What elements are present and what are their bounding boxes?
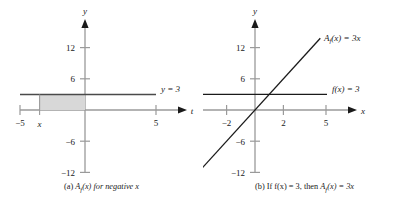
- x-axis-name-x: x: [360, 106, 365, 116]
- y-axis-arrow: [251, 19, 258, 28]
- y-axis-name-y: y: [82, 6, 87, 16]
- y-tick-label-minus12: −12: [61, 168, 75, 178]
- y-tick-label-minus12: −12: [231, 168, 245, 178]
- curve-label-af-rest: (x) = 3x: [331, 33, 360, 43]
- figure-container: −5 x 5 12 6 −6 −12 t y y = 3 (a) Af(x) f…: [0, 0, 406, 206]
- caption-a-prefix: (a): [64, 182, 73, 191]
- x-tick-label-2: 2: [281, 118, 286, 128]
- curve-label-af-equals-3x: Af(x) = 3x: [323, 33, 360, 44]
- curve-label-f-equals-3: f(x) = 3: [332, 84, 360, 94]
- plot-b: −5 −2 2 5 12 6 −6 −12 x y f(x) = 3 Af(x)…: [203, 0, 406, 181]
- caption-b-prefix: (b) If f(x) = 3, then: [255, 182, 318, 191]
- x-axis-name-t: t: [191, 106, 194, 116]
- caption-a: (a) Af(x) for negative x: [0, 181, 203, 195]
- y-tick-label-minus6: −6: [65, 137, 75, 147]
- y-axis-name-y: y: [252, 6, 257, 16]
- caption-b-rest: (x) = 3x: [327, 182, 354, 191]
- y-axis-arrow: [81, 19, 88, 28]
- x-axis-arrow: [348, 106, 357, 113]
- shaded-area-region: [40, 94, 85, 110]
- panel-a: −5 x 5 12 6 −6 −12 t y y = 3 (a) Af(x) f…: [0, 0, 203, 206]
- y-tick-label-6: 6: [241, 74, 246, 84]
- x-axis-arrow: [178, 106, 187, 113]
- plot-a: −5 x 5 12 6 −6 −12 t y y = 3: [0, 0, 203, 181]
- x-tick-label-5: 5: [324, 118, 329, 128]
- curve-label-y-equals-3: y = 3: [160, 84, 181, 94]
- x-tick-label-minus2: −2: [222, 118, 232, 128]
- panel-b: −5 −2 2 5 12 6 −6 −12 x y f(x) = 3 Af(x)…: [203, 0, 406, 206]
- caption-b: (b) If f(x) = 3, then Af(x) = 3x: [203, 181, 406, 195]
- x-tick-label-5: 5: [154, 118, 159, 128]
- y-tick-label-6: 6: [71, 74, 76, 84]
- caption-a-rest: (x) for negative x: [82, 182, 139, 191]
- x-tick-label-minus5: −5: [15, 118, 25, 128]
- y-tick-label-12: 12: [236, 43, 245, 53]
- y-tick-label-12: 12: [66, 43, 75, 53]
- y-tick-label-minus6: −6: [235, 137, 245, 147]
- x-tick-label-x: x: [37, 119, 42, 129]
